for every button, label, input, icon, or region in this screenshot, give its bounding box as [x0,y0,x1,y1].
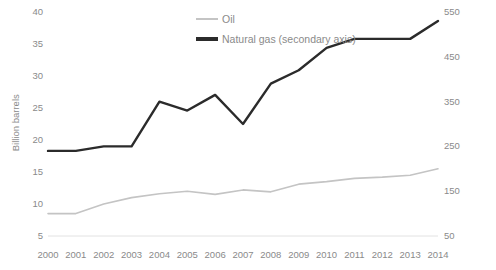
x-axis-tick: 2005 [177,250,198,260]
legend-item-oil[interactable]: Oil [196,9,356,29]
y-axis-left-tick: 30 [3,71,43,81]
legend-item-natural-gas[interactable]: Natural gas (secondary axis) [196,29,356,49]
chart-legend: Oil Natural gas (secondary axis) [196,9,356,49]
y-axis-right-tick: 50 [444,231,455,241]
legend-label-natural-gas: Natural gas (secondary axis) [222,34,356,45]
x-axis-tick: 2002 [93,250,114,260]
x-axis-ticks: 2000200120022003200420052006200720082009… [48,250,438,264]
y-axis-left-tick: 20 [3,135,43,145]
line-chart: Billion barrels Billion m³ 5101520253035… [0,0,496,270]
y-axis-right-tick: 450 [444,52,460,62]
legend-label-oil: Oil [222,14,235,25]
series-line-oil [48,169,438,214]
x-axis-tick: 2014 [427,250,448,260]
gas-line-swatch-icon [196,37,218,41]
y-axis-left-tick: 15 [3,167,43,177]
y-axis-left-tick: 40 [3,7,43,17]
oil-line-swatch-icon [196,18,218,20]
x-axis-tick: 2008 [260,250,281,260]
y-axis-left-tick: 10 [3,199,43,209]
y-axis-right-tick: 550 [444,7,460,17]
y-axis-left-tick: 35 [3,39,43,49]
y-axis-left-tick: 25 [3,103,43,113]
x-axis-tick: 2007 [232,250,253,260]
x-axis-tick: 2013 [400,250,421,260]
x-axis-tick: 2012 [372,250,393,260]
x-axis-tick: 2010 [316,250,337,260]
y-axis-right-tick: 250 [444,141,460,151]
x-axis-tick: 2004 [149,250,170,260]
y-axis-left-tick: 5 [3,231,43,241]
x-axis-tick: 2006 [205,250,226,260]
x-axis-tick: 2009 [288,250,309,260]
x-axis-tick: 2011 [344,250,364,260]
y-axis-right-tick: 350 [444,97,460,107]
x-axis-tick: 2001 [65,250,86,260]
y-axis-right-tick: 150 [444,186,460,196]
x-axis-tick: 2003 [121,250,142,260]
x-axis-tick: 2000 [37,250,58,260]
